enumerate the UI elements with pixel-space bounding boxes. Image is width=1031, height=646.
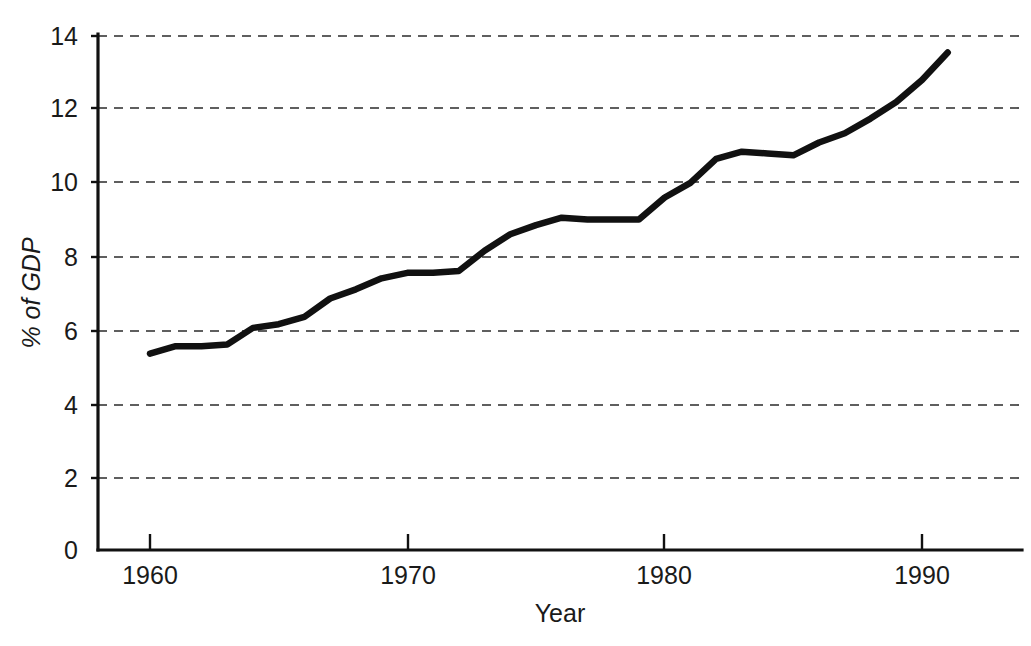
y-tick-label-14: 14: [50, 22, 78, 50]
data-series-line: [150, 53, 948, 354]
y-tick-label-10: 10: [50, 168, 78, 196]
x-axis-title: Year: [535, 599, 586, 627]
y-axis-title: % of GDP: [17, 237, 45, 348]
y-tick-label-0: 0: [64, 536, 78, 564]
x-tick-label-1990: 1990: [894, 561, 950, 589]
chart-page: 14 12 10 8 6 4 2 0 1960 1970 1980 1990 %…: [0, 0, 1031, 646]
y-tick-label-6: 6: [64, 317, 78, 345]
gridlines: [98, 36, 1022, 478]
x-tick-label-1980: 1980: [636, 561, 692, 589]
y-tick-label-2: 2: [64, 464, 78, 492]
y-tick-label-12: 12: [50, 94, 78, 122]
line-chart: 14 12 10 8 6 4 2 0 1960 1970 1980 1990 %…: [0, 0, 1031, 646]
x-tick-labels: 1960 1970 1980 1990: [122, 561, 950, 589]
x-tick-label-1960: 1960: [122, 561, 178, 589]
x-tick-label-1970: 1970: [380, 561, 436, 589]
x-tick-marks: [150, 534, 922, 550]
y-tick-label-4: 4: [64, 391, 78, 419]
y-tick-label-8: 8: [64, 243, 78, 271]
y-tick-labels: 14 12 10 8 6 4 2 0: [50, 22, 78, 564]
